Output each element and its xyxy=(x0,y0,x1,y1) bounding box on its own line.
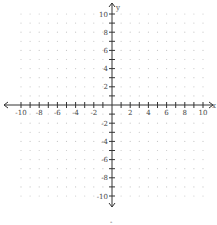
x-tick-label: 2 xyxy=(128,109,132,117)
y-tick-label: 10 xyxy=(99,11,108,19)
y-axis-label: y xyxy=(115,4,120,12)
y-tick-label: -6 xyxy=(101,156,108,164)
x-tick-label: 4 xyxy=(146,109,151,117)
y-tick-label: 2 xyxy=(104,83,108,91)
x-tick-label: -4 xyxy=(72,109,79,117)
y-tick-label: -2 xyxy=(101,120,108,128)
y-tick-label: -10 xyxy=(97,193,108,201)
y-tick-label: 4 xyxy=(104,65,109,73)
x-tick-label: -10 xyxy=(15,109,26,117)
y-tick-label: -8 xyxy=(101,174,108,182)
y-tick-label: 8 xyxy=(104,29,108,37)
below-mark: - xyxy=(110,218,113,225)
x-axis-label: x xyxy=(212,102,216,110)
x-tick-label: -2 xyxy=(90,109,97,117)
x-tick-label: 10 xyxy=(199,109,208,117)
x-tick-label: 8 xyxy=(183,109,187,117)
axes xyxy=(4,3,213,207)
y-tick-label: -4 xyxy=(101,138,108,146)
x-tick-label: -6 xyxy=(54,109,61,117)
coordinate-plane: -10-8-6-4-2246810108642-2-4-6-8-10 x y - xyxy=(0,0,217,225)
y-tick-label: 6 xyxy=(104,47,109,55)
x-tick-label: 6 xyxy=(164,109,169,117)
x-tick-label: -8 xyxy=(36,109,43,117)
